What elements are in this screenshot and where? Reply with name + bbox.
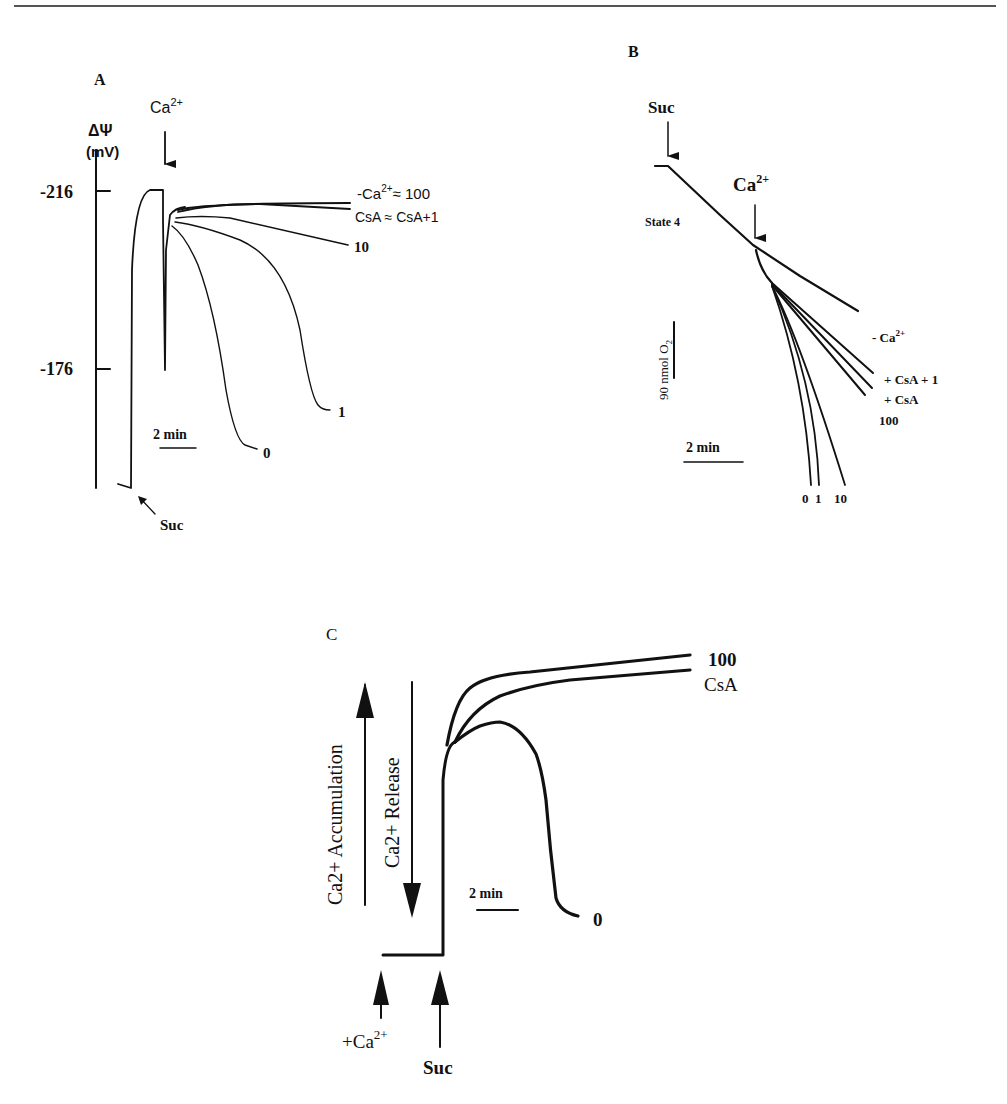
panel-c-label: C bbox=[326, 625, 337, 644]
trace-b-minus-ca bbox=[655, 166, 858, 311]
y-tick-label-216: -216 bbox=[40, 182, 73, 202]
trace-label-100-b: 100 bbox=[879, 413, 899, 428]
y-axis-label-delta-psi: ΔΨ bbox=[88, 122, 113, 139]
ca-marker-label: Ca2+ bbox=[150, 96, 183, 116]
y-axis-label-unit: (mV) bbox=[86, 143, 119, 160]
trace-c-csa bbox=[455, 670, 690, 742]
panel-a-label: A bbox=[94, 71, 106, 88]
suc-marker-label: Suc bbox=[160, 517, 184, 533]
suc-marker-label-c: Suc bbox=[423, 1057, 453, 1078]
suc-arrow-icon-c bbox=[431, 970, 449, 1005]
trace-label-10-b: 10 bbox=[834, 491, 847, 506]
suc-marker-label-b: Suc bbox=[648, 98, 675, 117]
up-arrow-icon bbox=[356, 682, 374, 718]
trace-label-0-c: 0 bbox=[593, 909, 603, 930]
down-arrow-icon bbox=[403, 883, 421, 918]
panel-b-label: B bbox=[628, 43, 639, 60]
trace-label-100-c: 100 bbox=[708, 649, 737, 670]
ca-marker-label-b: Ca2+ bbox=[733, 172, 769, 195]
release-label: Ca2+ Release bbox=[381, 757, 403, 868]
figure: A ΔΨ (mV) -216 -176 Ca2+ -Ca2+≈ 100 CsA … bbox=[0, 0, 1007, 1104]
trace-a-0 bbox=[172, 226, 257, 449]
state-4-label: State 4 bbox=[645, 215, 680, 229]
trace-label-0-b: 0 bbox=[802, 491, 809, 506]
accumulation-label: Ca2+ Accumulation bbox=[324, 744, 346, 905]
trace-b-100 bbox=[772, 285, 865, 395]
trace-label-1: 1 bbox=[338, 404, 346, 420]
svg-text:Ca2+ Release: Ca2+ Release bbox=[381, 757, 403, 868]
trace-c-100 bbox=[447, 655, 690, 745]
time-scale-label: 2 min bbox=[153, 427, 187, 442]
trace-b-csa-plus-1 bbox=[772, 283, 873, 373]
trace-a-csa bbox=[178, 204, 350, 212]
trace-a-1 bbox=[175, 222, 330, 410]
trace-label-csa-c: CsA bbox=[704, 674, 738, 695]
trace-label-minus-ca-100: -Ca2+≈ 100 bbox=[357, 183, 430, 202]
svg-text:Ca2+ Accumulation: Ca2+ Accumulation bbox=[324, 744, 346, 905]
y-tick-label-176: -176 bbox=[40, 359, 73, 379]
panel-c: C Ca2+ Accumulation Ca2+ Release 100 CsA… bbox=[324, 625, 738, 1078]
time-scale-label-c: 2 min bbox=[469, 886, 503, 901]
plus-ca-arrow-icon bbox=[373, 970, 389, 1005]
trace-label-minus-ca-b: - Ca2+ bbox=[872, 328, 905, 345]
panel-b: B Suc Ca2+ State 4 - Ca2+ + CsA + 1 + Cs… bbox=[628, 43, 938, 506]
trace-a-baseline bbox=[118, 190, 185, 488]
svg-text:90 nmol O2: 90 nmol O2 bbox=[656, 340, 674, 400]
trace-label-csa-plus-1: + CsA + 1 bbox=[884, 372, 938, 387]
plus-ca-label: +Ca2+ bbox=[342, 1027, 388, 1052]
trace-label-10: 10 bbox=[354, 239, 369, 255]
time-scale-label-b: 2 min bbox=[686, 440, 720, 455]
trace-label-csa: CsA ≈ CsA+1 bbox=[355, 209, 439, 225]
trace-label-1-b: 1 bbox=[815, 491, 822, 506]
panel-a: A ΔΨ (mV) -216 -176 Ca2+ -Ca2+≈ 100 CsA … bbox=[40, 71, 439, 533]
trace-label-0: 0 bbox=[263, 445, 271, 461]
trace-a-10 bbox=[176, 217, 348, 246]
trace-label-csa-b: + CsA bbox=[884, 392, 919, 407]
o2-scale-label: 90 nmol O2 bbox=[656, 340, 674, 400]
